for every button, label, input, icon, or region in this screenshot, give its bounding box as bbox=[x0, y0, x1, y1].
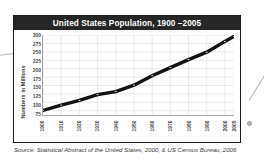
y-tick-label: 200 bbox=[33, 67, 41, 73]
x-tick-label: 1970 bbox=[160, 116, 180, 138]
x-tick-label: 1950 bbox=[123, 116, 143, 138]
data-point-marker bbox=[43, 110, 44, 111]
data-point-marker bbox=[169, 67, 171, 68]
chart-title-bar: United States Population, 1900 –2005 bbox=[14, 16, 240, 30]
x-tick-label-text: 2005 bbox=[231, 120, 237, 131]
data-point-marker bbox=[206, 52, 208, 53]
data-point-marker bbox=[224, 41, 226, 42]
x-tick-label-text: 1910 bbox=[57, 120, 63, 131]
data-point-marker bbox=[115, 91, 117, 92]
y-tick-label: 250 bbox=[33, 49, 41, 55]
x-tick-label-text: 1960 bbox=[149, 120, 155, 131]
x-tick-label-text: 1970 bbox=[167, 120, 173, 131]
x-tick-label: 1960 bbox=[142, 116, 162, 138]
y-tick-label: 100 bbox=[33, 102, 41, 108]
y-tick-label: 150 bbox=[33, 84, 41, 90]
data-point-marker bbox=[188, 59, 190, 60]
chart-figure-root: United States Population, 1900 –2005 Num… bbox=[0, 0, 264, 163]
x-tick-label: 1900 bbox=[32, 116, 52, 138]
plot-area bbox=[42, 35, 234, 116]
data-point-marker bbox=[133, 85, 135, 86]
x-tick-label-text: 1990 bbox=[204, 120, 210, 131]
right-callout-dot bbox=[247, 121, 252, 126]
data-point-marker bbox=[97, 94, 99, 95]
data-point-marker bbox=[233, 36, 234, 37]
line-chart-svg bbox=[43, 35, 234, 115]
x-tick-label: 1940 bbox=[105, 116, 125, 138]
y-axis-title: Numbers in Millions bbox=[18, 55, 27, 129]
x-tick-label: 1910 bbox=[50, 116, 70, 138]
x-tick-label-text: 1980 bbox=[185, 120, 191, 131]
x-tick-label: 2005 bbox=[224, 116, 244, 138]
source-caption: Source: Statistical Abstract of the Unit… bbox=[14, 146, 250, 153]
y-tick-label: 275 bbox=[33, 41, 41, 47]
y-tick-label: 175 bbox=[33, 76, 41, 82]
y-tick-label: 225 bbox=[33, 58, 41, 64]
y-tick-label: 125 bbox=[33, 93, 41, 99]
data-point-marker bbox=[60, 105, 62, 106]
right-callout-leader-line bbox=[249, 75, 264, 101]
y-tick-label: 300 bbox=[33, 32, 41, 38]
data-point-marker bbox=[151, 75, 153, 76]
x-tick-label: 1920 bbox=[69, 116, 89, 138]
x-tick-label-text: 1920 bbox=[76, 120, 82, 131]
x-tick-label-text: 1930 bbox=[94, 120, 100, 131]
x-tick-label-text: 1900 bbox=[39, 120, 45, 131]
x-tick-label-text: 1950 bbox=[130, 120, 136, 131]
x-tick-label: 1980 bbox=[178, 116, 198, 138]
data-series-line bbox=[43, 36, 234, 110]
y-axis-tick-labels: 30027525022520017515012510075 bbox=[27, 33, 42, 116]
x-tick-label-text: 1940 bbox=[112, 120, 118, 131]
x-axis-tick-labels: 1900191019201930194019501960197019801990… bbox=[42, 116, 234, 138]
chart-plot-container: Numbers in Millions 30027525022520017515… bbox=[18, 33, 236, 138]
y-axis-title-text: Numbers in Millions bbox=[20, 65, 26, 118]
chart-title: United States Population, 1900 –2005 bbox=[53, 19, 201, 28]
x-tick-label: 1990 bbox=[197, 116, 217, 138]
chart-frame: United States Population, 1900 –2005 Num… bbox=[13, 15, 241, 143]
x-tick-label: 1930 bbox=[87, 116, 107, 138]
data-point-marker bbox=[78, 100, 80, 101]
